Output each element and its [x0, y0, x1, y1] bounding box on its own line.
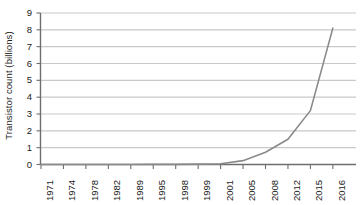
- data-series-line: [41, 28, 333, 164]
- plot-area: [0, 0, 363, 205]
- gridlines: [41, 13, 357, 148]
- transistor-count-line-chart: Transistor count (billions) 0123456789 1…: [0, 0, 363, 205]
